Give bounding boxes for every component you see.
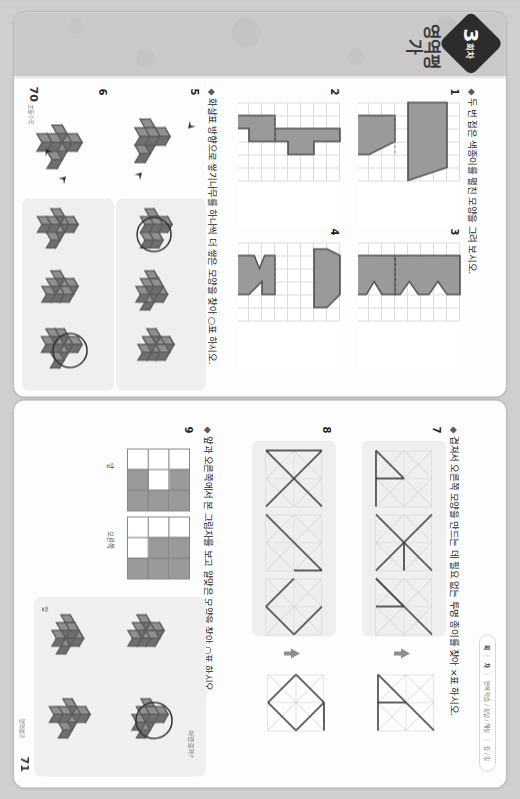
- shadow-views-9: [120, 442, 196, 582]
- screenshot-canvas: 3 회차 영역평가 ◆두 번 접은 색종이를 펼친 모양을 그려 보시오. 1 …: [0, 0, 520, 799]
- question-number-7: 7: [431, 426, 442, 433]
- tab-divider-2: [484, 673, 492, 674]
- option-marker-a: 앞: [41, 606, 50, 612]
- arrow-up-icon-7: [401, 648, 410, 658]
- cube-given-6: [30, 102, 112, 188]
- prompt-bullet-icon-2: ◆: [207, 88, 217, 95]
- transparent-sheets-7[interactable]: [362, 440, 446, 636]
- transparent-sheets-8[interactable]: [252, 440, 336, 636]
- question-number-3: 3: [449, 228, 460, 235]
- target-sheet-8: [262, 672, 326, 736]
- page-number-right: 71: [18, 756, 31, 771]
- question-number-4: 4: [329, 228, 340, 235]
- prompt-bullet-icon-3: ◆: [449, 426, 459, 433]
- prompt-stack-text: 화살표 방향으로 쌓기나무를 하나씩 더 쌓은 모양을 찾아 ○표 하시오.: [207, 98, 218, 364]
- grid-board-1: [358, 100, 462, 228]
- tab-item-3[interactable]: 월 / 일: [484, 746, 492, 761]
- cube-given-5: [120, 102, 202, 188]
- scanned-spread: 3 회차 영역평가 ◆두 번 접은 색종이를 펼친 모양을 그려 보시오. 1 …: [0, 0, 520, 799]
- question-number-8: 8: [321, 426, 332, 433]
- page-label-left: 초등수학: [27, 104, 35, 124]
- question-number-5: 5: [189, 88, 200, 95]
- prompt-overlay: ◆겹쳐서 오른쪽 모양을 만드는 데 필요 없는 투명 종이를 찾아 ×표 하시…: [448, 426, 462, 715]
- session-badge-number: 3: [461, 28, 481, 42]
- rail-edge: [14, 76, 506, 78]
- hint-label: 어떤걸까?: [187, 730, 196, 757]
- cube-options-6[interactable]: [22, 198, 114, 390]
- arrow-stem-8: [284, 651, 291, 655]
- shadow-options-9[interactable]: [34, 596, 206, 776]
- tab-item-2[interactable]: 반복 학습 / 정답 / 해설: [484, 680, 492, 732]
- prompt-stack: ◆화살표 방향으로 쌓기나무를 하나씩 더 쌓은 모양을 찾아 ○표 하시오.: [206, 88, 220, 364]
- question-number-1: 1: [449, 88, 460, 95]
- tab-item-0[interactable]: 회: [484, 644, 492, 649]
- section-title: 영역평가: [404, 18, 440, 74]
- arrow-up-icon-8: [291, 648, 300, 658]
- target-sheet-7: [372, 672, 436, 736]
- grid-board-2: [238, 100, 342, 228]
- prompt-fold: ◆두 번 접은 색종이를 펼친 모양을 그려 보시오.: [466, 88, 480, 273]
- question-number-2: 2: [329, 88, 340, 95]
- left-page: 3 회차 영역평가 ◆두 번 접은 색종이를 펼친 모양을 그려 보시오. 1 …: [14, 12, 506, 396]
- page-number-left: 70: [27, 86, 40, 101]
- question-number-9: 9: [183, 426, 194, 433]
- grid-board-3: [358, 240, 462, 368]
- question-number-6: 6: [97, 88, 108, 95]
- prompt-fold-text: 두 번 접은 색종이를 펼친 모양을 그려 보시오.: [467, 98, 478, 274]
- shadow-label-right: 오른쪽: [106, 530, 116, 548]
- arrow-stem-7: [394, 651, 401, 655]
- session-badge: 3 회차: [438, 12, 503, 76]
- prompt-bullet-icon-4: ◆: [203, 426, 213, 433]
- tab-divider-3: [484, 739, 492, 740]
- page-label-right: 영역평가: [18, 718, 26, 738]
- tab-item-1[interactable]: 차: [484, 662, 492, 667]
- header-tab[interactable]: 회 차 반복 학습 / 정답 / 해설 월 / 일: [479, 634, 496, 771]
- shadow-label-front: 앞: [106, 462, 116, 468]
- grid-board-4: [238, 240, 342, 368]
- cube-options-5[interactable]: [116, 198, 206, 390]
- session-badge-unit: 회차: [465, 43, 477, 58]
- right-page: 회 차 반복 학습 / 정답 / 해설 월 / 일 ◆겹쳐서 오른쪽 모양을 만…: [14, 400, 506, 787]
- prompt-bullet-icon: ◆: [467, 88, 477, 95]
- tab-divider-1: [484, 655, 492, 656]
- prompt-overlay-text: 겹쳐서 오른쪽 모양을 만드는 데 필요 없는 투명 종이를 찾아 ×표 하시오…: [449, 436, 460, 716]
